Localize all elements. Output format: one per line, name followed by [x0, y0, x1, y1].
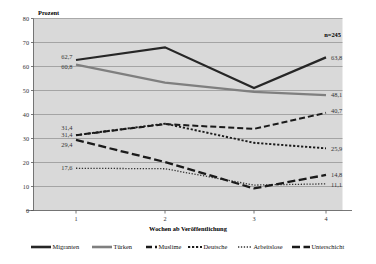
end-value-label-unterschicht: 14,8: [331, 171, 342, 178]
legend-label-unterschicht: Unterschicht: [312, 243, 345, 250]
sample-size-annotation: n=245: [324, 31, 341, 38]
y-tick-label: 50: [23, 87, 29, 94]
y-tick-label: 70: [23, 39, 29, 46]
chart-legend: MigrantenTürkenMuslimeDeutscheArbeitslos…: [31, 243, 344, 250]
y-axis-ticks: 01020304050607080: [23, 15, 34, 214]
y-tick-label: 80: [23, 15, 29, 22]
start-value-label-deutsche: 31,4: [61, 131, 73, 138]
legend-label-t-rken: Türken: [114, 243, 133, 250]
legend-label-arbeitslose: Arbeitslose: [254, 243, 283, 250]
legend-label-migranten: Migranten: [53, 243, 80, 250]
y-axis-title: Prozent: [38, 9, 60, 16]
y-tick-label: 20: [23, 159, 29, 166]
start-value-label-türken: 60,8: [61, 63, 72, 70]
y-tick-label: 30: [23, 135, 29, 142]
x-tick-label: 1: [74, 215, 77, 222]
x-tick-label: 3: [252, 215, 255, 222]
x-tick-label: 2: [163, 215, 166, 222]
legend-label-deutsche: Deutsche: [204, 243, 228, 250]
x-axis-title: Wochen ab Veröffentlichung: [149, 225, 228, 232]
start-value-label-migranten: 62,7: [61, 53, 73, 60]
y-tick-label: 40: [23, 111, 29, 118]
start-value-label-unterschicht: 29,4: [61, 141, 73, 148]
end-value-label-arbeitslose: 11,1: [331, 181, 342, 188]
x-axis-ticks: 1234: [74, 211, 327, 223]
start-value-label-arbeitslose: 17,6: [61, 164, 72, 171]
end-value-label-deutsche: 25,9: [331, 145, 342, 152]
legend-label-muslime: Muslime: [159, 243, 182, 250]
x-tick-label: 4: [324, 215, 327, 222]
end-value-label-türken: 48,1: [331, 91, 342, 98]
y-tick-label: 10: [23, 183, 29, 190]
line-chart: 01020304050607080 1234 62,763,860,848,13…: [0, 0, 376, 264]
y-tick-label: 60: [23, 63, 29, 70]
end-value-label-migranten: 63,8: [331, 54, 342, 61]
chart-container: 01020304050607080 1234 62,763,860,848,13…: [0, 0, 376, 264]
end-value-label-muslime: 40,7: [331, 107, 343, 114]
